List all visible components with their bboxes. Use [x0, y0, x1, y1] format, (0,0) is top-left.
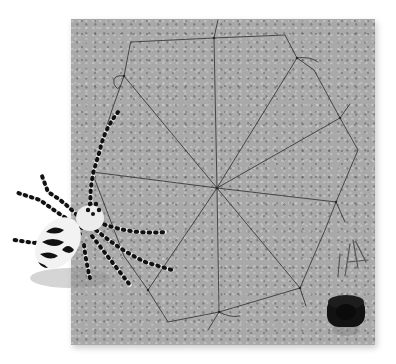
- pins: [338, 240, 368, 276]
- wire-web: [0, 0, 396, 364]
- photo-scene: [0, 0, 396, 364]
- beaded-spider: [14, 112, 172, 285]
- web-frame: [92, 35, 358, 322]
- wire-spool: [327, 295, 365, 336]
